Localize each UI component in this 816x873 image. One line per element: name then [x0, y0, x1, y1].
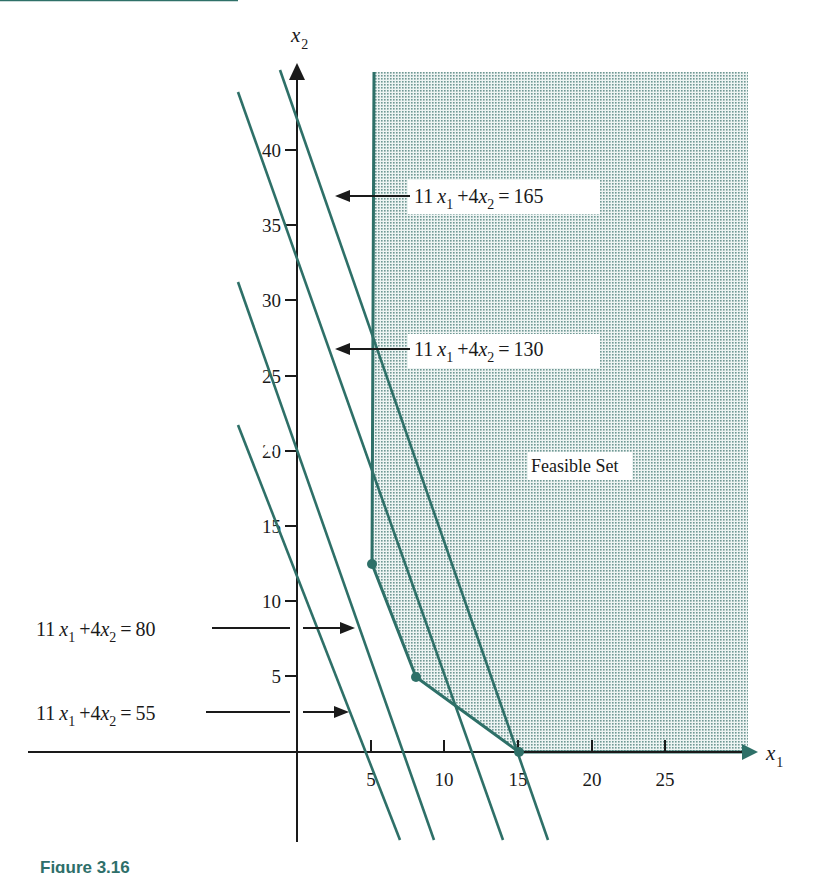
feasible-set-label: Feasible Set — [531, 456, 619, 476]
lp-feasible-set-chart: 5 10 15 20 25 5 10 15 20 25 30 35 40 x1 … — [0, 0, 816, 873]
arrow-right-icon — [334, 706, 349, 718]
svg-text:40: 40 — [262, 140, 281, 161]
svg-text:10: 10 — [435, 769, 454, 790]
svg-text:5: 5 — [272, 666, 282, 687]
corner-point — [411, 672, 421, 682]
svg-text:30: 30 — [262, 290, 281, 311]
x-axis-arrow-icon — [742, 744, 758, 760]
y-axis-arrow-icon — [289, 63, 305, 80]
figure-caption: Figure 3.16 — [40, 858, 130, 873]
label-eq-80: 11x1+4x2=80 — [36, 618, 156, 645]
svg-text:10: 10 — [262, 591, 281, 612]
corner-point — [514, 747, 524, 757]
line-label-gaps — [255, 247, 276, 452]
corner-point — [367, 559, 377, 569]
x-axis-label: x1 — [765, 741, 783, 770]
svg-text:25: 25 — [656, 769, 675, 790]
svg-text:35: 35 — [262, 215, 281, 236]
y-axis-label: x2 — [290, 23, 308, 52]
y-tick-labels: 5 10 15 20 25 30 35 40 — [262, 140, 281, 687]
feasible-region — [372, 72, 748, 752]
svg-text:20: 20 — [583, 769, 602, 790]
arrow-left-icon — [335, 343, 350, 355]
label-eq-55: 11x1+4x2=55 — [36, 702, 156, 729]
arrow-left-icon — [335, 190, 350, 202]
arrow-right-icon — [340, 622, 355, 634]
